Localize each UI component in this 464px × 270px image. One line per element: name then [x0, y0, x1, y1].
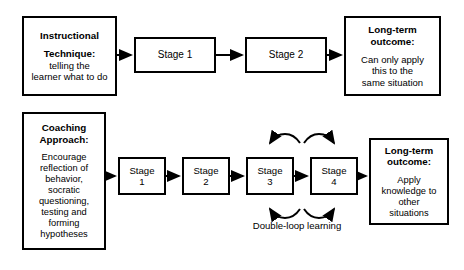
bottom-outcome-body-line1: Apply — [397, 175, 420, 186]
top-stage-2-label: Stage 2 — [269, 49, 303, 61]
bottom-stage-2-box: Stage 2 — [182, 157, 230, 195]
bottom-stage-3-box: Stage 3 — [246, 157, 294, 195]
coaching-title-line1: Coaching — [42, 122, 87, 134]
coaching-body-line8: hypotheses — [40, 229, 88, 240]
double-loop-arc-top-right-head — [304, 134, 334, 143]
double-loop-learning-label: Double-loop learning — [232, 220, 362, 231]
top-outcome-body-line1: Can only apply — [361, 54, 424, 65]
double-loop-arc-top-left-head — [270, 134, 300, 143]
bottom-stage-2-number: 2 — [203, 176, 208, 187]
top-stage-1-label: Stage 1 — [158, 49, 192, 61]
coaching-body-line5: questioning, — [39, 196, 89, 207]
bottom-outcome-title-line1: Long-term — [385, 145, 433, 157]
bottom-stage-3-word: Stage — [257, 165, 282, 176]
coaching-title-line2: Approach: — [40, 134, 89, 146]
bottom-stage-2-word: Stage — [193, 165, 218, 176]
instructional-technique-box: Instructional Technique: telling the lea… — [22, 16, 117, 96]
instructional-body-line2: learner what to do — [31, 71, 107, 82]
top-outcome-body-line2: this to the — [372, 65, 413, 76]
coaching-body-line7: forming — [48, 218, 79, 229]
top-outcome-body-line3: same situation — [362, 77, 423, 88]
coaching-approach-box: Coaching Approach: Encourage reflection … — [22, 112, 106, 250]
bottom-longterm-outcome-box: Long-term outcome: Apply knowledge to ot… — [369, 138, 449, 225]
bottom-stage-1-number: 1 — [139, 176, 144, 187]
instructional-body-line1: telling the — [49, 60, 90, 71]
coaching-body-line4: socratic — [48, 185, 80, 196]
top-longterm-outcome-box: Long-term outcome: Can only apply this t… — [344, 16, 441, 96]
top-outcome-title-line1: Long-term — [368, 24, 416, 36]
diagram-canvas: Instructional Technique: telling the lea… — [0, 0, 464, 270]
bottom-stage-4-number: 4 — [331, 176, 336, 187]
coaching-body-line2: reflection of — [40, 163, 88, 174]
coaching-body-line1: Encourage — [42, 152, 87, 163]
bottom-outcome-body-line3: other — [398, 197, 419, 208]
double-loop-arc-bottom-right-head — [304, 209, 334, 218]
bottom-stage-1-word: Stage — [129, 165, 154, 176]
bottom-outcome-body-line2: knowledge to — [382, 186, 437, 197]
bottom-outcome-title-line2: outcome: — [387, 156, 431, 168]
top-stage-2-box: Stage 2 — [245, 37, 327, 73]
bottom-stage-4-box: Stage 4 — [310, 157, 358, 195]
instructional-title-line2: Technique: — [44, 48, 96, 60]
bottom-stage-4-word: Stage — [321, 165, 346, 176]
double-loop-arc-bottom-left-head — [270, 209, 300, 218]
instructional-title-line1: Instructional — [40, 30, 99, 42]
top-outcome-title-line2: outcome: — [370, 36, 414, 48]
bottom-outcome-body-line4: situations — [389, 208, 428, 219]
coaching-body-line3: behavior, — [45, 174, 83, 185]
bottom-stage-1-box: Stage 1 — [118, 157, 166, 195]
top-stage-1-box: Stage 1 — [134, 37, 216, 73]
bottom-stage-3-number: 3 — [267, 176, 272, 187]
coaching-body-line6: testing and — [41, 207, 87, 218]
